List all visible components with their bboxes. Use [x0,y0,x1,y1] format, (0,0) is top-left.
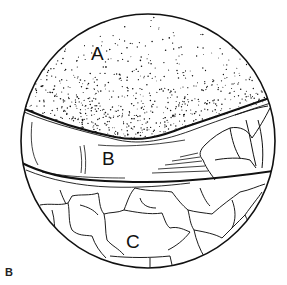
circular-field-illustration: A B C [0,0,287,285]
right-cell-fragments [200,106,270,180]
band-b-lower-edge [22,163,280,182]
stippled-region-a [20,15,281,142]
region-label-b: B [102,148,115,169]
panel-label: B [5,266,13,278]
region-label-a: A [91,43,104,64]
cell-mosaic-region-c [40,184,265,270]
region-label-c: C [126,231,140,252]
